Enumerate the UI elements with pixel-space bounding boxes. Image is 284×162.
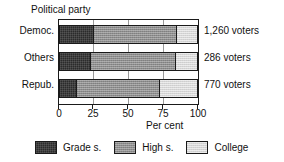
bar-row-others [59,52,198,71]
legend-item-grade[interactable]: Grade s. [35,141,101,154]
bar-segment-democ-high[interactable] [94,25,177,44]
legend-swatch-grade-icon [35,141,57,154]
bar-segment-repub-grade[interactable] [59,79,77,98]
x-tick-label-50: 50 [122,108,133,120]
legend-item-college[interactable]: College [186,141,248,154]
bar-segment-others-high[interactable] [91,52,176,71]
legend-label-college: College [214,142,248,154]
bar-segment-democ-college[interactable] [177,25,198,44]
plot-area [58,19,199,105]
bar-segment-others-college[interactable] [176,52,198,71]
bar-segment-others-grade[interactable] [59,52,91,71]
category-label-repub: Repub. [0,79,54,91]
x-tick-label-75: 75 [157,108,168,120]
chart-legend: Grade s. High s. College [35,139,279,156]
legend-swatch-high-icon [114,141,136,154]
bar-row-repub [59,79,198,98]
chart-title: Political party [31,4,90,16]
legend-item-high[interactable]: High s. [114,141,173,154]
bar-row-democ [59,25,198,44]
x-tick-label-0: 0 [56,108,62,120]
annotation-repub-voters: 770 voters [204,79,251,91]
bar-segment-repub-high[interactable] [77,79,160,98]
legend-label-grade: Grade s. [63,142,101,154]
x-tick-label-25: 25 [87,108,98,120]
annotation-democ-voters: 1,260 voters [204,25,259,37]
bar-segment-democ-grade[interactable] [59,25,94,44]
category-label-others: Others [0,52,54,64]
bar-segment-repub-college[interactable] [160,79,198,98]
category-label-democ: Democ. [0,25,54,37]
x-axis-title: Per cent [146,120,183,132]
annotation-others-voters: 286 voters [204,52,251,64]
legend-swatch-college-icon [186,141,208,154]
legend-label-high: High s. [142,142,173,154]
x-tick-label-100: 100 [190,108,207,120]
